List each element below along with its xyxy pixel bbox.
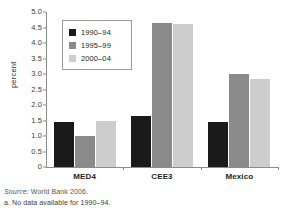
source-note-text: World Bank 2006. [29, 188, 88, 195]
bar [250, 79, 270, 167]
x-axis-line [46, 167, 278, 168]
x-axis-label: Mexico [225, 172, 253, 181]
x-axis-label: MED4 [73, 172, 96, 181]
bar [54, 122, 74, 167]
bar [96, 121, 116, 168]
legend-label: 1995–99 [81, 41, 111, 50]
bar [173, 24, 193, 167]
bar [229, 74, 249, 167]
x-axis-label: CEE3 [151, 172, 172, 181]
x-tick-mark [278, 167, 279, 170]
legend-label: 2000–04 [81, 54, 111, 63]
legend-label: 1990–94 [81, 28, 111, 37]
footnote-a: a. No data available for 1990–94. [4, 197, 274, 208]
y-tick-label: 3.0 [31, 70, 42, 78]
x-tick-mark [123, 167, 124, 170]
bar [131, 116, 151, 167]
y-tick-label: 2.5 [31, 86, 42, 94]
legend-item: 1995–99 [69, 39, 131, 52]
y-axis-title: percent [9, 62, 18, 88]
y-tick-label: 0 [38, 163, 42, 171]
y-tick-label: 0.5 [31, 148, 42, 156]
y-tick-label: 1.5 [31, 117, 42, 125]
x-tick-mark [201, 167, 202, 170]
source-note: Source: World Bank 2006. [4, 186, 274, 197]
bar [75, 136, 95, 167]
y-tick-label: 2.0 [31, 101, 42, 109]
y-tick-label: 3.5 [31, 55, 42, 63]
bar [152, 23, 172, 167]
legend-swatch-icon [69, 55, 76, 62]
legend-item: 1990–94 [69, 26, 131, 39]
source-note-prefix: Source: [4, 188, 29, 195]
y-tick-label: 5.0 [31, 8, 42, 16]
chart-legend: 1990–941995–992000–04 [62, 20, 132, 70]
y-tick-label: 4.5 [31, 24, 42, 32]
legend-swatch-icon [69, 42, 76, 49]
chart-figure: percent 00.51.01.52.02.53.03.54.04.55.0 … [0, 0, 284, 214]
bar [208, 122, 228, 167]
legend-swatch-icon [69, 29, 76, 36]
y-tick-label: 4.0 [31, 39, 42, 47]
footnotes: Source: World Bank 2006. a. No data avai… [4, 186, 274, 208]
legend-item: 2000–04 [69, 52, 131, 65]
y-tick-label: 1.0 [31, 132, 42, 140]
